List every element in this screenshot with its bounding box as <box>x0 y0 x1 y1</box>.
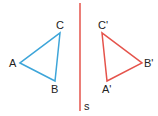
label-line-s: s <box>84 100 90 112</box>
reflection-diagram: A B C A' B' C' s <box>0 0 158 116</box>
label-vertex-b: B <box>51 83 58 95</box>
label-vertex-a-prime: A' <box>102 83 111 95</box>
label-vertex-a: A <box>9 57 17 69</box>
label-vertex-b-prime: B' <box>144 57 153 69</box>
triangle-a-prime-b-prime-c-prime <box>102 33 142 81</box>
triangle-abc <box>20 33 60 81</box>
label-vertex-c-prime: C' <box>98 19 108 31</box>
label-vertex-c: C <box>56 19 64 31</box>
